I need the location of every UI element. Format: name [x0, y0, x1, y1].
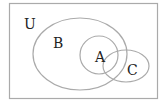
set-c-ellipse — [103, 50, 149, 82]
set-a-label: A — [94, 49, 106, 65]
set-b-label: B — [53, 35, 63, 51]
universe-label: U — [24, 16, 36, 32]
venn-diagram: U B A C — [0, 0, 165, 105]
set-c-label: C — [127, 62, 138, 78]
